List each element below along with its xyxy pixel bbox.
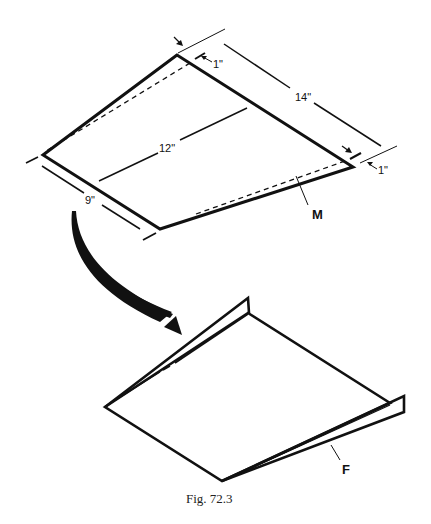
figure-canvas: 14" 1" 1" 12" — [0, 0, 431, 524]
bottom-shape-folded: F — [105, 298, 404, 481]
dimension-label-1-right: 1" — [378, 164, 388, 176]
dimension-label-1-top: 1" — [213, 58, 223, 70]
dimension-14in: 14" — [174, 29, 397, 163]
left-fold-flap — [105, 298, 249, 407]
dimension-label-9: 9" — [85, 194, 95, 206]
dimension-label-12: 12" — [159, 142, 175, 154]
label-m-leader — [296, 176, 308, 205]
label-f: F — [342, 462, 350, 477]
dimension-12in: 12" — [99, 108, 247, 181]
dimension-label-14: 14" — [295, 91, 311, 103]
top-shape-flat: 14" 1" 1" 12" — [26, 29, 397, 240]
figure-caption: Fig. 72.3 — [186, 491, 233, 506]
bottom-shape-outline — [105, 313, 390, 481]
label-f-leader — [331, 445, 340, 460]
label-m: M — [312, 207, 323, 222]
dimension-1in-right: 1" — [350, 153, 388, 176]
dimension-9in: 9" — [26, 157, 156, 240]
right-fold-flap — [222, 396, 404, 481]
fold-line-dashed-top — [46, 63, 190, 151]
curved-arrow-icon — [72, 211, 182, 335]
